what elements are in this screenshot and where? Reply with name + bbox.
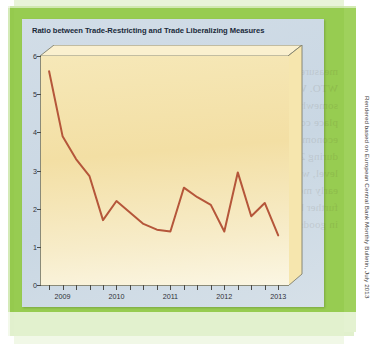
x-axis-tick-label: 2012 <box>216 292 232 301</box>
source-credit: Rendered based on European Central Bank … <box>357 96 371 326</box>
chart-card: measures adopted since October 2008 and … <box>22 19 324 307</box>
plot-front-face: 012345620092010201120122013 <box>40 56 289 286</box>
x-axis-tick <box>157 285 158 290</box>
x-axis-tick-label: 2013 <box>270 292 286 301</box>
y-axis-tick <box>37 171 41 172</box>
x-axis-tick <box>143 285 144 290</box>
x-axis-tick <box>90 285 91 290</box>
y-axis-tick-label: 2 <box>33 204 37 213</box>
page-bottom-fade <box>0 312 378 344</box>
x-axis-tick <box>184 285 185 290</box>
plot-3d-top-face <box>40 45 302 56</box>
y-axis-tick <box>37 285 41 286</box>
x-axis-tick <box>170 285 171 290</box>
plot-area: 012345620092010201120122013 <box>40 45 316 295</box>
x-axis-tick <box>49 285 50 290</box>
x-axis-tick <box>251 285 252 290</box>
y-axis-tick-label: 0 <box>33 281 37 290</box>
x-axis-tick-label: 2011 <box>163 292 178 301</box>
x-axis-tick <box>211 285 212 290</box>
y-axis-tick-label: 6 <box>33 52 37 61</box>
x-axis-tick <box>265 285 266 290</box>
y-axis-tick <box>37 94 41 95</box>
page-green-right-strip <box>344 6 356 332</box>
x-axis-tick-label: 2009 <box>55 292 71 301</box>
figure-page: measures adopted since October 2008 and … <box>0 0 378 344</box>
x-axis-tick <box>116 285 117 290</box>
x-axis-tick <box>63 285 64 290</box>
y-axis-tick <box>37 247 41 248</box>
y-axis-tick-label: 5 <box>33 90 37 99</box>
x-axis-tick <box>103 285 104 290</box>
chart-title: Ratio between Trade-Restricting and Trad… <box>32 26 317 36</box>
y-axis-tick <box>37 209 41 210</box>
x-axis-tick <box>278 285 279 290</box>
page-left-fade <box>0 0 10 344</box>
y-axis-tick-label: 4 <box>33 128 37 137</box>
plot-3d-right-face <box>288 45 304 285</box>
x-axis-tick-label: 2010 <box>108 292 124 301</box>
x-axis-tick <box>224 285 225 290</box>
x-axis-tick <box>238 285 239 290</box>
x-axis-tick <box>197 285 198 290</box>
page-top-fade <box>0 0 378 8</box>
y-axis-tick-label: 1 <box>33 242 37 251</box>
y-axis-tick-label: 3 <box>33 166 37 175</box>
x-axis-tick <box>76 285 77 290</box>
x-axis-tick <box>130 285 131 290</box>
series-line-ratio <box>41 56 289 285</box>
series-path <box>49 71 278 235</box>
y-axis-tick <box>37 132 41 133</box>
y-axis-tick <box>37 56 41 57</box>
